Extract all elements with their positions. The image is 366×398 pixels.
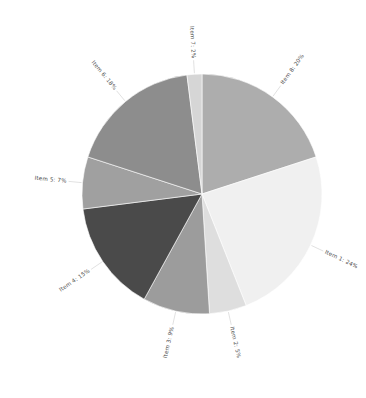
pie-slice-label: Item 7: 2% bbox=[189, 26, 197, 58]
pie-slices-group bbox=[82, 74, 322, 314]
pie-slice-label: Item 8: 20% bbox=[279, 53, 305, 86]
pie-leader-line bbox=[91, 262, 102, 269]
pie-leader-line bbox=[117, 91, 125, 101]
pie-leader-line bbox=[69, 181, 82, 182]
pie-chart-figure: Item 8: 20%Item 1: 24%Item 2: 5%Item 3: … bbox=[0, 0, 366, 398]
pie-slice-label: Item 3: 9% bbox=[162, 326, 175, 359]
pie-leader-line bbox=[273, 86, 281, 97]
pie-slice-label: Item 1: 24% bbox=[324, 249, 359, 270]
pie-slice-label: Item 5: 7% bbox=[34, 175, 67, 184]
pie-leader-line bbox=[173, 312, 176, 325]
pie-slice-label: Item 6: 18% bbox=[91, 59, 118, 90]
pie-slice-label: Item 4: 15% bbox=[58, 268, 91, 293]
pie-leader-line bbox=[228, 312, 231, 325]
pie-leader-line bbox=[194, 60, 195, 73]
pie-leader-line bbox=[311, 246, 323, 252]
pie-slice-label: Item 2: 5% bbox=[229, 326, 242, 359]
pie-chart-canvas: Item 8: 20%Item 1: 24%Item 2: 5%Item 3: … bbox=[0, 0, 366, 398]
